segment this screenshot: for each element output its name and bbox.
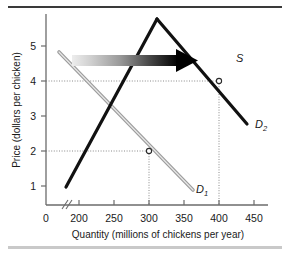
demand-curve-2 bbox=[157, 19, 247, 124]
y-axis-ticks bbox=[41, 46, 46, 186]
y-tick-label-3: 3 bbox=[30, 110, 36, 122]
x-axis-label: Quantity (millions of chickens per year) bbox=[72, 229, 244, 240]
demand-shift-arrow bbox=[72, 49, 198, 72]
demand2-label-main: D bbox=[255, 118, 263, 130]
chart-figure: 5 4 3 2 1 0 200 250 300 350 400 450 Quan… bbox=[0, 0, 290, 255]
x-tick-label-350: 350 bbox=[175, 212, 193, 224]
demand-curve-1 bbox=[59, 52, 193, 190]
supply-demand-chart: 5 4 3 2 1 0 200 250 300 350 400 450 Quan… bbox=[0, 0, 290, 255]
y-tick-label-4: 4 bbox=[30, 75, 36, 87]
x-tick-label-450: 450 bbox=[245, 212, 263, 224]
origin-label: 0 bbox=[43, 212, 49, 224]
supply-curve-label: S bbox=[236, 52, 244, 64]
demand1-curve-label: D 1 bbox=[196, 183, 208, 198]
demand1-stroke-inner bbox=[59, 52, 193, 190]
guide-lines bbox=[46, 81, 219, 205]
x-tick-label-200: 200 bbox=[70, 212, 88, 224]
demand2-curve-label: D 2 bbox=[255, 118, 268, 133]
y-axis-label: Price (dollars per chicken) bbox=[11, 52, 22, 168]
arrow-shaft bbox=[72, 55, 178, 66]
x-tick-label-250: 250 bbox=[105, 212, 123, 224]
supply-curve bbox=[66, 19, 157, 187]
original-equilibrium-point bbox=[146, 148, 151, 153]
demand1-label-main: D bbox=[196, 183, 204, 195]
y-tick-label-1: 1 bbox=[30, 180, 36, 192]
x-tick-label-300: 300 bbox=[140, 212, 158, 224]
x-axis-ticks bbox=[79, 200, 254, 205]
demand2-label-sub: 2 bbox=[262, 124, 268, 133]
y-tick-label-5: 5 bbox=[30, 40, 36, 52]
y-tick-label-2: 2 bbox=[30, 145, 36, 157]
demand1-label-sub: 1 bbox=[204, 189, 208, 198]
new-equilibrium-point bbox=[216, 78, 221, 83]
x-tick-label-400: 400 bbox=[210, 212, 228, 224]
